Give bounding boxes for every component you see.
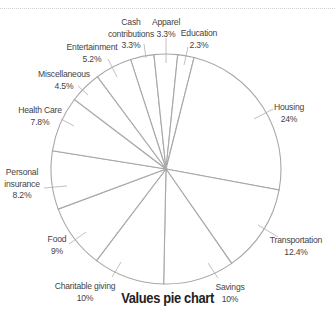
- slice-label: Transportation12.4%: [270, 235, 323, 257]
- slice-label: Entertainment5.2%: [67, 42, 119, 64]
- slice-label: Food9%: [48, 234, 67, 256]
- chart-title: Values pie chart: [24, 289, 312, 306]
- slice-label: Personalinsurance8.2%: [4, 167, 40, 200]
- slice-label: Apparel3.3%: [152, 17, 181, 39]
- pie-chart: Cashcontributions3.3%Apparel3.3%Educatio…: [0, 0, 335, 315]
- slice-label: Education2.3%: [181, 28, 218, 50]
- pie-slices: [51, 54, 281, 284]
- slice-label: Housing24%: [274, 102, 305, 124]
- slice-label: Health Care7.8%: [18, 105, 62, 127]
- slice-label: Miscellaneous4.5%: [38, 69, 90, 91]
